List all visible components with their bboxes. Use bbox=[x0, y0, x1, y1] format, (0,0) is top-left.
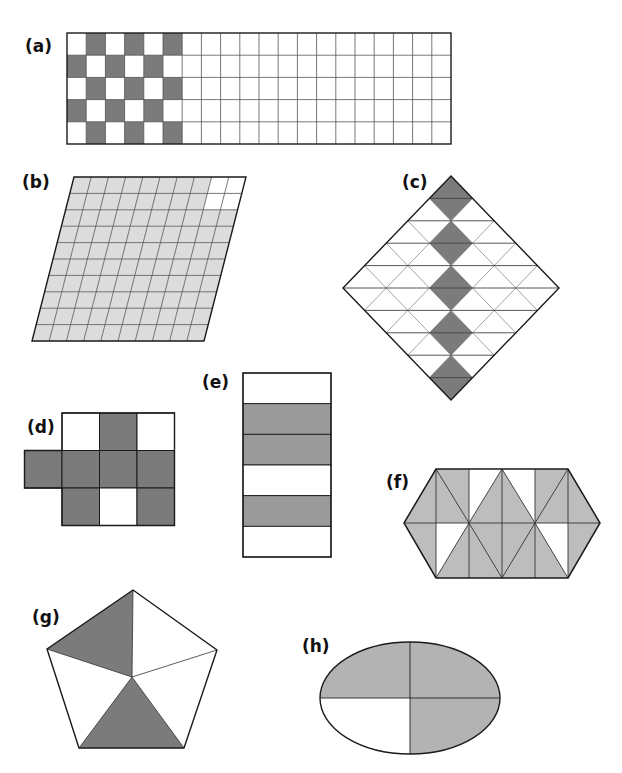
shaded-cell bbox=[125, 122, 144, 144]
figure-f-hexagon bbox=[404, 469, 600, 578]
shaded-cell bbox=[163, 122, 182, 144]
shaded-cell bbox=[137, 451, 175, 489]
figure-c-diamond bbox=[343, 176, 559, 400]
shaded-cell bbox=[100, 413, 138, 451]
shaded-cell bbox=[144, 55, 163, 77]
shaded-cell bbox=[86, 33, 105, 55]
shaded-cell bbox=[125, 33, 144, 55]
shaded-cell bbox=[67, 55, 86, 77]
figure-a-grid bbox=[67, 33, 451, 144]
unshaded-cell bbox=[137, 413, 175, 451]
shaded-cell bbox=[62, 488, 100, 526]
shaded-cell bbox=[100, 451, 138, 489]
figure-g-pentagon bbox=[47, 590, 217, 748]
figure-e-strips bbox=[243, 373, 331, 557]
shaded-cell bbox=[163, 33, 182, 55]
shaded-cell bbox=[25, 451, 63, 489]
shaded-cell bbox=[62, 451, 100, 489]
unshaded-cell bbox=[100, 488, 138, 526]
figure-h-ellipse bbox=[320, 642, 500, 754]
shaded-cell bbox=[105, 55, 124, 77]
shaded-cell bbox=[105, 100, 124, 122]
shaded-cell bbox=[125, 77, 144, 99]
shaded-cell bbox=[86, 122, 105, 144]
figure-b-parallelogram bbox=[32, 177, 246, 341]
shaded-cell bbox=[86, 77, 105, 99]
shaded-cell bbox=[163, 77, 182, 99]
shaded-cell bbox=[144, 100, 163, 122]
fractions-diagram bbox=[0, 0, 622, 773]
shaded-cell bbox=[137, 488, 175, 526]
shaded-cell bbox=[67, 100, 86, 122]
unshaded-cell bbox=[62, 413, 100, 451]
figure-d-cross bbox=[25, 413, 175, 526]
